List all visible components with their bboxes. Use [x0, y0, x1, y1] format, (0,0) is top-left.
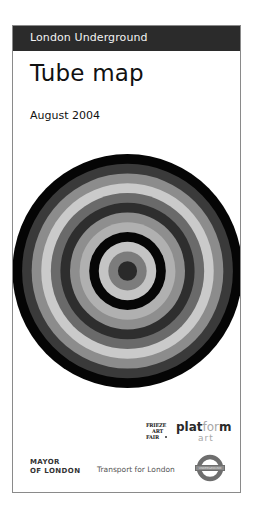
platform-art-logo: platform [176, 421, 232, 433]
cover-title: Tube map [30, 60, 144, 86]
svg-text:UNDERGROUND: UNDERGROUND [199, 466, 222, 470]
platform-art-sub: art [198, 433, 214, 443]
target-icon [13, 154, 241, 388]
platform-part1: plat [176, 420, 203, 434]
mayor-of-london-logo: MAYOR OF LONDON [30, 458, 80, 476]
platform-part2: for [203, 420, 220, 434]
partner-logos: FRIEZE ART FAIR platform art [146, 421, 236, 445]
concentric-circles-artwork [13, 154, 241, 388]
frieze-art-fair-logo: FRIEZE ART FAIR [146, 422, 168, 442]
mayor-line1: MAYOR [30, 458, 80, 467]
mayor-line2: OF LONDON [30, 467, 80, 476]
frieze-dot-icon [165, 436, 167, 438]
tube-map-cover: London Underground Tube map August 2004 … [12, 25, 241, 493]
underground-roundel-icon: UNDERGROUND [194, 454, 226, 482]
transport-for-london-label: Transport for London [97, 465, 175, 474]
header-bar: London Underground [13, 26, 240, 51]
cover-date: August 2004 [30, 109, 100, 122]
brand-label: London Underground [30, 31, 148, 44]
platform-part3: m [219, 420, 232, 434]
